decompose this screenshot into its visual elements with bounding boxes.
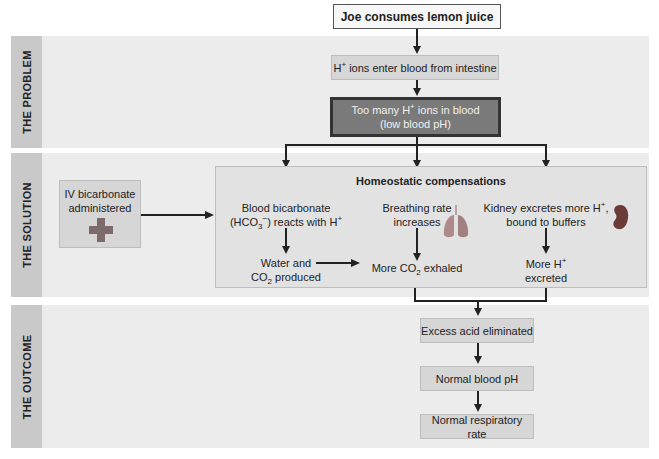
problem-step-ions-enter: H+ ions enter blood from intestine bbox=[331, 55, 499, 80]
connector bbox=[414, 300, 547, 302]
connector bbox=[141, 214, 206, 216]
medical-cross-icon bbox=[89, 218, 113, 242]
connector bbox=[545, 144, 547, 161]
band-outcome: THE OUTCOME bbox=[11, 305, 649, 448]
arrow-down-icon bbox=[474, 404, 482, 412]
panel-title: Homeostatic compensations bbox=[216, 174, 646, 188]
band-label-outcome: THE OUTCOME bbox=[11, 305, 42, 448]
arrow-down-icon bbox=[474, 356, 482, 364]
kidney-text: Kidney excretes more H+,bound to buffers bbox=[480, 201, 612, 229]
connector bbox=[416, 228, 418, 255]
lungs-icon bbox=[442, 205, 470, 239]
connector bbox=[416, 144, 418, 161]
arrow-right-icon bbox=[205, 211, 214, 219]
band-label-problem: THE PROBLEM bbox=[11, 36, 42, 148]
kidney-icon bbox=[611, 204, 629, 231]
start-box: Joe consumes lemon juice bbox=[333, 4, 501, 29]
arrow-down-icon bbox=[413, 253, 421, 261]
arrow-down-icon bbox=[413, 88, 421, 96]
more-h-excreted-text: More H+excreted bbox=[505, 257, 587, 285]
arrow-right-icon bbox=[351, 259, 360, 267]
outcome-normal-respiratory-rate: Normal respiratory rate bbox=[420, 414, 534, 439]
outcome-normal-blood-ph: Normal blood pH bbox=[420, 366, 534, 391]
connector bbox=[285, 144, 287, 161]
problem-step-low-ph: Too many H+ ions in blood(low blood pH) bbox=[330, 97, 501, 137]
band-label-solution: THE SOLUTION bbox=[11, 153, 42, 297]
connector bbox=[477, 391, 479, 405]
arrow-down-icon bbox=[413, 46, 421, 54]
iv-bicarbonate-box: IV bicarbonateadministered bbox=[59, 180, 141, 248]
connector bbox=[477, 343, 479, 357]
connector bbox=[316, 262, 352, 264]
arrow-down-icon bbox=[474, 308, 482, 316]
outcome-excess-acid-eliminated: Excess acid eliminated bbox=[420, 318, 534, 343]
connector bbox=[545, 228, 547, 247]
arrow-down-icon bbox=[282, 246, 290, 254]
connector bbox=[416, 29, 418, 47]
bicarbonate-text: Blood bicarbonate(HCO3−) reacts with H+ bbox=[222, 201, 350, 229]
arrow-down-icon bbox=[542, 246, 550, 254]
co2-exhaled-text: More CO2 exhaled bbox=[360, 261, 474, 275]
connector bbox=[285, 228, 287, 247]
water-co2-text: Water andCO2 produced bbox=[240, 256, 332, 284]
